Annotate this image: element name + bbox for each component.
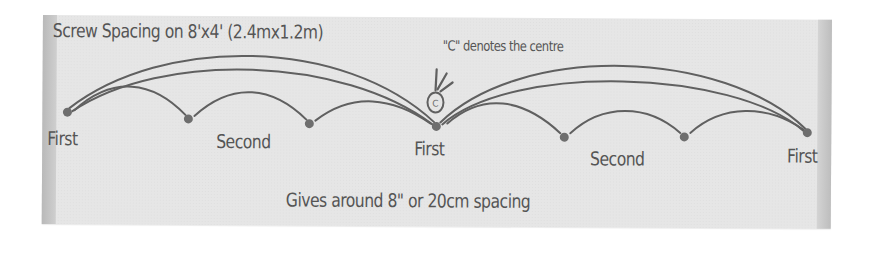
pointer-arrow-icon — [436, 69, 453, 91]
large-arc-left — [69, 55, 434, 123]
screw-dot — [305, 119, 314, 128]
label-second-1: Second — [216, 130, 271, 152]
label-first-2: First — [414, 137, 444, 159]
screw-dot — [184, 114, 193, 123]
diagram-title: Screw Spacing on 8'x4' (2.4mx1.2m) — [53, 19, 323, 43]
screw-dot — [803, 128, 812, 137]
spacing-note: Gives around 8" or 20cm spacing — [286, 188, 531, 211]
screw-dot — [560, 133, 569, 142]
diagram-panel: C Screw Spacing on 8'x4' (2.4mx1.2m) "C"… — [42, 15, 832, 229]
label-second-2: Second — [590, 147, 645, 169]
svg-text:C: C — [432, 98, 438, 108]
centre-marker: C — [427, 92, 443, 112]
label-first-3: First — [787, 145, 817, 167]
small-arc-2 — [194, 92, 306, 120]
small-arc-4 — [447, 103, 560, 133]
centre-note: "C" denotes the centre — [443, 37, 564, 54]
small-arc-5 — [570, 111, 680, 134]
label-first-1: First — [47, 127, 77, 149]
screw-dot — [432, 122, 441, 131]
screw-dot — [680, 132, 689, 141]
screw-dot — [63, 108, 72, 117]
